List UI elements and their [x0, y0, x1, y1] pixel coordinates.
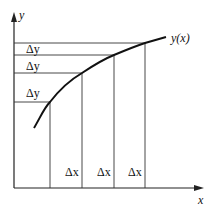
- y-axis-arrow-icon: [11, 12, 17, 22]
- curve-label: y(x): [170, 31, 190, 45]
- y-axis: [11, 12, 17, 188]
- y-axis-label: y: [18, 8, 25, 22]
- dy-label-middle: Δy: [26, 59, 40, 73]
- curve-y-of-x: [34, 37, 166, 128]
- x-axis: [14, 185, 204, 191]
- x-axis-label: x: [197, 193, 204, 207]
- dy-label-bottom: Δy: [26, 86, 40, 100]
- dy-label-top: Δy: [26, 42, 40, 56]
- increment-diagram: y x y(x) Δy Δy Δy Δx Δx Δx: [0, 0, 216, 208]
- dx-label-2: Δx: [97, 165, 111, 179]
- dx-label-1: Δx: [65, 165, 79, 179]
- dx-label-3: Δx: [128, 165, 142, 179]
- x-axis-arrow-icon: [194, 185, 204, 191]
